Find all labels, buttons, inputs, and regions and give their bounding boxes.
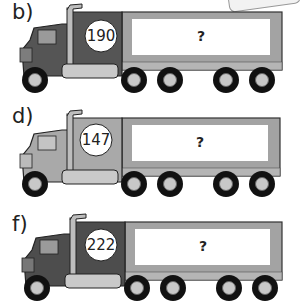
truck-illustration: [0, 212, 290, 305]
truck-illustration: [0, 104, 290, 200]
problem-b: b) 190 ?: [0, 0, 290, 96]
trailer-question-mark: ?: [199, 238, 207, 254]
truck-illustration: [0, 0, 290, 96]
problem-f: f) 222 ?: [0, 212, 290, 305]
trailer-question-mark: ?: [196, 134, 204, 150]
cab-number: 147: [76, 131, 116, 149]
trailer-question-mark: ?: [197, 28, 205, 44]
cab-number: 190: [81, 27, 121, 45]
cab-number: 222: [81, 236, 121, 254]
problem-d: d) 147 ?: [0, 104, 290, 200]
